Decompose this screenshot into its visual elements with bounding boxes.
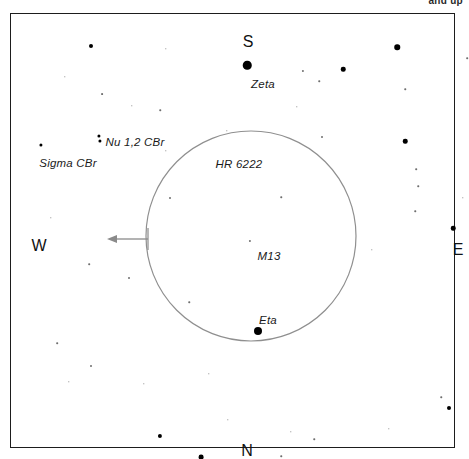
object-label-eta: Eta [259,314,277,326]
star-marker [89,44,93,48]
object-label-sigma: Sigma CBr [39,157,96,169]
magnitude-legend-caption: and up [428,0,463,6]
faint-star-marker [169,197,171,199]
object-label-zeta: Zeta [251,78,275,90]
direction-label-east: E [453,241,464,259]
faint-star-marker [88,263,90,265]
faint-star-marker [462,197,463,198]
faint-star-marker [101,93,103,95]
faint-star-marker [466,57,468,59]
drift-direction-arrow [107,228,148,250]
faint-star-marker [56,342,58,344]
star-marker [394,44,400,50]
direction-label-north: N [241,442,253,459]
star-marker [403,139,408,144]
direction-label-west: W [31,237,46,255]
faint-star-marker [188,301,190,303]
faint-star-marker [159,109,161,111]
arrow-head-icon [107,235,117,243]
star-chart: and up ZetaNu 1,2 CBrSigma CBrHR 6222M13… [0,0,469,459]
direction-label-south: S [243,33,254,51]
faint-star-marker [280,196,282,198]
faint-star-marker [414,210,416,212]
object-label-nu: Nu 1,2 CBr [106,136,165,148]
sky-vector-layer [11,14,453,446]
object-label-m13: M13 [258,250,281,262]
star-marker [341,67,346,72]
faint-star-marker [321,136,323,138]
star-marker [199,455,204,459]
star-marker [254,327,262,335]
faint-star-marker [417,185,419,187]
faint-star-marker [313,438,315,440]
object-label-hr6222: HR 6222 [216,158,263,170]
faint-star-marker [440,396,442,398]
faint-star-marker [404,88,406,90]
faint-star-marker [318,80,320,82]
star-marker [447,406,451,410]
faint-star-marker [280,455,282,457]
faint-star-marker [415,168,417,170]
star-marker [243,61,252,70]
sky-chart-frame: ZetaNu 1,2 CBrSigma CBrHR 6222M13Eta SWE… [10,13,455,448]
faint-star-marker [90,365,92,367]
faint-star-marker [128,277,130,279]
star-marker [451,226,456,231]
